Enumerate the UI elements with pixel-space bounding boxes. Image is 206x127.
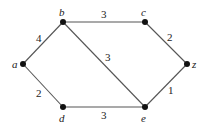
weight-a-b: 4 bbox=[36, 32, 42, 44]
edges bbox=[23, 22, 187, 107]
label-c: c bbox=[141, 6, 146, 18]
node-d bbox=[60, 104, 66, 110]
node-c bbox=[142, 19, 148, 25]
weight-b-c: 3 bbox=[101, 8, 107, 20]
nodes bbox=[20, 19, 190, 110]
label-e: e bbox=[141, 112, 146, 124]
label-z: z bbox=[191, 58, 197, 70]
label-a: a bbox=[12, 58, 18, 70]
node-z bbox=[184, 61, 190, 67]
edge-a-d bbox=[23, 64, 63, 107]
weight-b-e: 3 bbox=[105, 51, 111, 63]
node-e bbox=[142, 104, 148, 110]
edge-e-z bbox=[145, 64, 187, 107]
edge-c-z bbox=[145, 22, 187, 64]
label-d: d bbox=[59, 112, 65, 124]
weight-e-z: 1 bbox=[168, 84, 174, 96]
node-b bbox=[60, 19, 66, 25]
weight-d-e: 3 bbox=[101, 109, 107, 121]
weight-a-d: 2 bbox=[36, 87, 42, 99]
edge-b-e bbox=[63, 22, 145, 107]
weight-c-z: 2 bbox=[167, 31, 173, 43]
weighted-graph: 4 2 3 3 3 2 1 a b c z d e bbox=[0, 0, 206, 127]
node-a bbox=[20, 61, 26, 67]
edge-a-b bbox=[23, 22, 63, 64]
label-b: b bbox=[59, 6, 65, 18]
